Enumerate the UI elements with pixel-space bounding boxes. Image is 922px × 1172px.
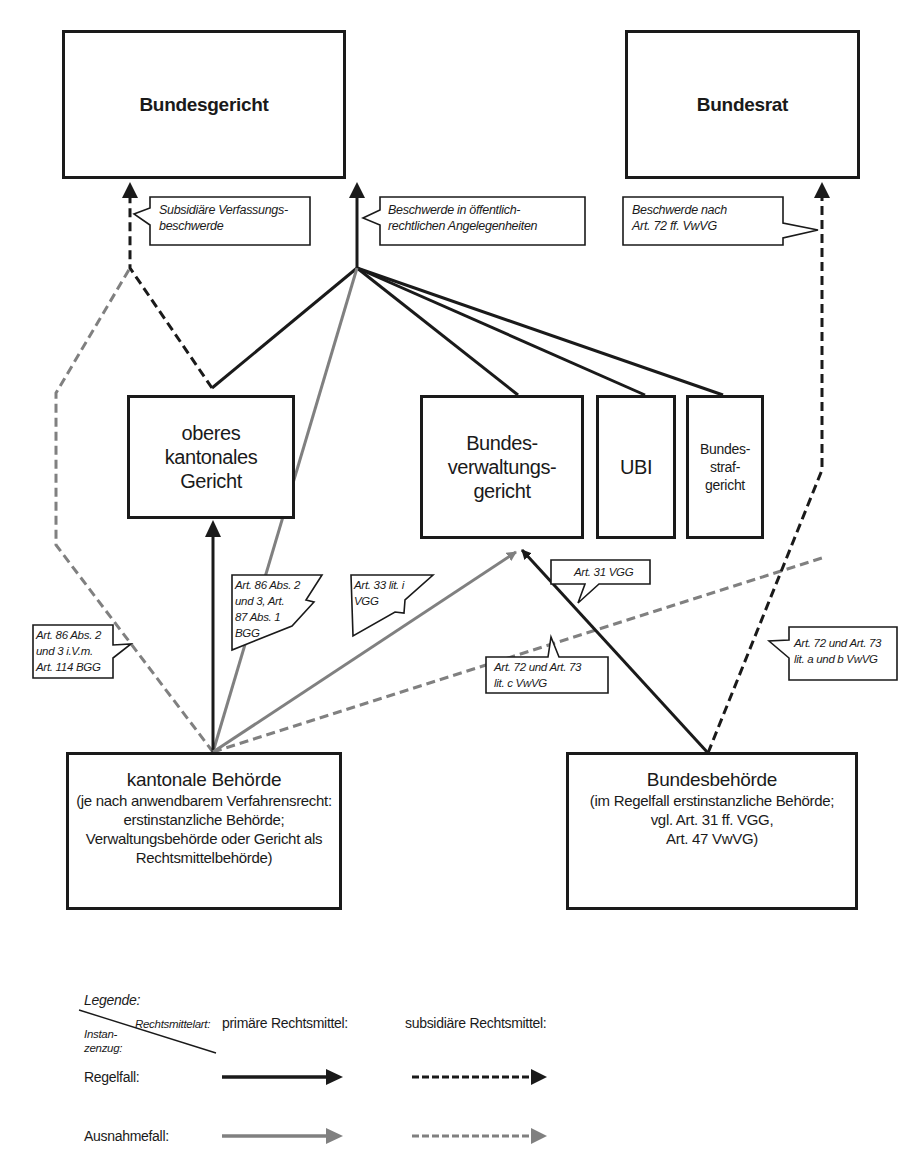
- node-ubi-label: UBI: [620, 455, 652, 479]
- callout-subsidiaere-verfassungsbeschwerde: Subsidiäre Verfassungs- beschwerde: [159, 202, 288, 234]
- legend-col-subsidiary: subsidiäre Rechtsmittel:: [405, 1015, 546, 1031]
- callout-art86-87: Art. 86 Abs. 2 und 3, Art. 87 Abs. 1 BGG: [235, 577, 300, 641]
- node-bundesgericht: Bundesgericht: [62, 30, 346, 179]
- node-line: (je nach anwendbarem Verfahrensrecht:: [76, 791, 332, 810]
- node-ubi: UBI: [596, 395, 676, 539]
- legend-row-regular: Regelfall:: [84, 1069, 139, 1085]
- node-line: erstinstanzliche Behörde;: [124, 810, 285, 829]
- callout-art72-ab: Art. 72 und Art. 73 lit. a und b VwVG: [794, 635, 881, 667]
- legend-arrow-primary-regular: [222, 1069, 343, 1085]
- node-label-line: gericht: [473, 479, 530, 503]
- arrow-primary-kantonal-to-oberes: [205, 520, 221, 752]
- node-label-line: kantonales: [165, 445, 258, 469]
- node-label-line: verwaltungs-: [448, 455, 557, 479]
- callout-art33: Art. 33 lit. i VGG: [354, 577, 404, 609]
- node-label-line: oberes: [182, 421, 241, 445]
- node-label-line: gericht: [705, 476, 745, 494]
- legend-col-header: Rechtsmittelart:: [135, 1017, 210, 1031]
- legend-arrow-subsidiary-regular: [412, 1069, 547, 1085]
- callout-art86-114: Art. 86 Abs. 2 und 3 i.V.m. Art. 114 BGG: [36, 627, 101, 675]
- node-bundesrat: Bundesrat: [625, 30, 860, 179]
- legend-row-header: Instan- zenzug:: [84, 1027, 122, 1055]
- legend-arrow-primary-exception: [222, 1128, 343, 1144]
- node-label-line: straf-: [710, 458, 740, 476]
- node-line: vgl. Art. 31 ff. VGG,: [651, 810, 774, 829]
- node-bundesbehoerde: Bundesbehörde (im Regelfall erstinstanzl…: [566, 752, 858, 910]
- node-title: Bundesbehörde: [647, 769, 777, 791]
- node-oberes-kantonales-gericht: oberes kantonales Gericht: [127, 395, 295, 519]
- legend-col-primary: primäre Rechtsmittel:: [222, 1015, 348, 1031]
- node-bundesstrafgericht: Bundes- straf- gericht: [686, 395, 764, 539]
- node-bundesrat-label: Bundesrat: [697, 94, 788, 116]
- callout-oeffentlich-rechtlich: Beschwerde in öffentlich- rechtlichen An…: [388, 202, 537, 234]
- callout-bundesrat-vwvg: Beschwerde nach Art. 72 ff. VwVG: [632, 202, 727, 234]
- node-bundesverwaltungsgericht: Bundes- verwaltungs- gericht: [420, 395, 584, 539]
- node-line: Verwaltungsbehörde oder Gericht als: [86, 829, 322, 848]
- node-label-line: Gericht: [180, 469, 242, 493]
- callout-art72-c: Art. 72 und Art. 73 lit. c VwVG: [494, 659, 581, 691]
- fan-out-lines: [212, 268, 723, 395]
- node-label-line: Bundes-: [700, 440, 750, 458]
- arrow-primary-to-bundesgericht: [349, 182, 365, 268]
- callout-art31: Art. 31 VGG: [574, 564, 633, 580]
- node-bundesgericht-label: Bundesgericht: [139, 94, 268, 116]
- node-label-line: Bundes-: [466, 431, 538, 455]
- legend-title: Legende:: [84, 992, 140, 1008]
- node-line: Art. 47 VwVG): [666, 829, 758, 848]
- legend-row-exception: Ausnahmefall:: [84, 1128, 169, 1144]
- node-line: (im Regelfall erstinstanzliche Behörde;: [590, 791, 834, 810]
- node-title: kantonale Behörde: [127, 769, 281, 791]
- node-kantonale-behoerde: kantonale Behörde (je nach anwendbarem V…: [66, 752, 342, 910]
- node-line: Rechtsmittelbehörde): [136, 848, 273, 867]
- legend-arrow-subsidiary-exception: [412, 1128, 547, 1144]
